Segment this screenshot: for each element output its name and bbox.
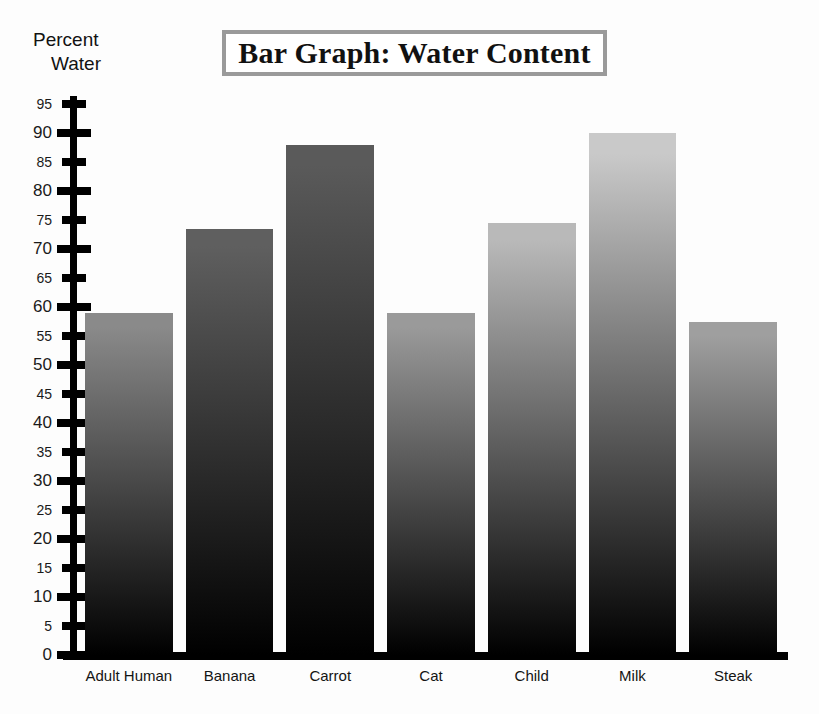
y-tick-label-45: 45 [16,387,52,401]
y-tick-label-50: 50 [16,356,52,373]
y-tick-label-80: 80 [16,182,52,199]
y-tick-15 [62,564,86,572]
y-tick-label-65: 65 [16,271,52,285]
y-tick-label-20: 20 [16,530,52,547]
x-axis-label-cat: Cat [377,668,485,683]
y-tick-90 [57,129,91,137]
y-tick-label-55: 55 [16,329,52,343]
x-axis-label-child: Child [478,668,586,683]
bar-cat [387,313,475,655]
y-tick-60 [57,303,91,311]
y-tick-label-90: 90 [16,124,52,141]
x-axis-label-carrot: Carrot [276,668,384,683]
y-tick-label-5: 5 [16,619,52,633]
y-tick-label-95: 95 [16,97,52,111]
y-tick-65 [62,274,86,282]
x-axis-label-adult-human: Adult Human [75,668,183,683]
y-tick-label-25: 25 [16,503,52,517]
y-tick-85 [62,158,86,166]
bar-banana [186,229,274,655]
y-tick-label-10: 10 [16,588,52,605]
x-axis-label-milk: Milk [579,668,687,683]
x-axis-label-banana: Banana [176,668,284,683]
bar-steak [689,322,777,656]
y-tick-label-85: 85 [16,155,52,169]
bar-milk [589,133,677,655]
y-tick-70 [57,245,91,253]
bar-child [488,223,576,655]
y-tick-80 [57,187,91,195]
y-tick-35 [62,448,86,456]
y-tick-label-40: 40 [16,414,52,431]
bar-chart: Bar Graph: Water Content Percent Water 0… [0,0,819,714]
bar-carrot [286,145,374,655]
x-axis-label-steak: Steak [679,668,787,683]
bar-adult-human [85,313,173,655]
y-tick-45 [62,390,86,398]
y-tick-label-0: 0 [16,646,52,663]
y-tick-label-75: 75 [16,213,52,227]
y-tick-5 [62,622,86,630]
y-tick-label-60: 60 [16,298,52,315]
y-tick-label-70: 70 [16,240,52,257]
y-axis-spine [70,96,77,658]
y-tick-95 [62,100,86,108]
y-tick-75 [62,216,86,224]
y-tick-label-15: 15 [16,561,52,575]
y-tick-55 [62,332,86,340]
plot-area: 05101520253035404550556065707580859095 A… [0,0,819,714]
y-tick-label-30: 30 [16,472,52,489]
y-tick-25 [62,506,86,514]
y-tick-label-35: 35 [16,445,52,459]
